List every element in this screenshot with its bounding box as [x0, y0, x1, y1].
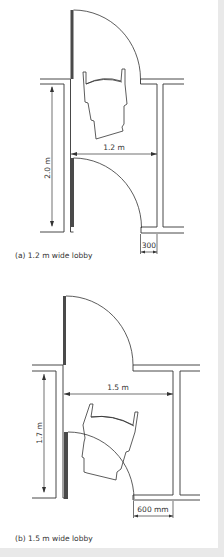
- width-dimension-a: 1.2 m: [71, 143, 157, 156]
- lobby-right-wall: [141, 79, 158, 227]
- lobby-diagrams: 2.0 m 1.2 m 300 (a) 1.2 m wide lobby: [0, 0, 224, 557]
- right-wall: [180, 371, 200, 495]
- length-label-b: 1.7 m: [35, 422, 44, 444]
- width-label-b: 1.5 m: [107, 383, 129, 392]
- right-wall: [163, 84, 184, 227]
- diagram-a-1-2m-lobby: 2.0 m 1.2 m 300 (a) 1.2 m wide lobby: [15, 10, 184, 260]
- lower-door-leaf: [64, 432, 68, 499]
- offset-dimension-b: 600 mm: [134, 501, 174, 518]
- bottom-right-wall: [141, 227, 184, 233]
- wheelchair-icon: [83, 69, 127, 139]
- upper-door-leaf: [63, 296, 66, 365]
- lower-door-leaf: [71, 158, 75, 227]
- upper-door-leaf: [71, 10, 74, 79]
- length-dimension-a: 2.0 m: [43, 86, 55, 227]
- wheelchair-icon: [82, 404, 138, 480]
- upper-door-swing-arc: [74, 10, 141, 79]
- width-dimension-b: 1.5 m: [64, 383, 173, 396]
- offset-dimension-a: 300: [141, 234, 158, 254]
- length-label-a: 2.0 m: [43, 157, 52, 179]
- length-dimension-b: 1.7 m: [35, 374, 47, 493]
- offset-label-b: 600 mm: [137, 505, 168, 514]
- caption-a: (a) 1.2 m wide lobby: [15, 251, 93, 260]
- lobby-right-wall: [133, 365, 173, 495]
- diagram-b-1-5m-lobby: 1.5 m 1.7 m 600 mm (b) 1.5 m wide lobby: [15, 296, 200, 543]
- bottom-right-wall: [133, 495, 200, 500]
- upper-door-swing-arc: [66, 296, 133, 365]
- caption-b: (b) 1.5 m wide lobby: [15, 534, 93, 543]
- offset-label-a: 300: [142, 241, 157, 250]
- width-label-a: 1.2 m: [103, 143, 125, 152]
- lower-door-swing-arc: [74, 158, 142, 228]
